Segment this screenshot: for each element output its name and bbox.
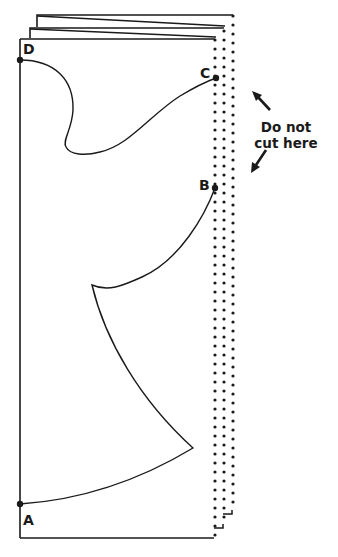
point-d-marker <box>17 57 23 63</box>
back-sheet <box>37 15 233 27</box>
cut-line-d-to-c <box>20 60 216 154</box>
point-c-label: C <box>200 66 210 80</box>
diagram-canvas <box>0 0 338 557</box>
point-d-label: D <box>23 42 35 56</box>
point-a-marker <box>17 501 23 507</box>
front-sheet <box>20 39 215 538</box>
arrow-up-left-icon <box>252 91 270 110</box>
point-b-label: B <box>199 178 210 192</box>
note-line-1: Do not <box>246 119 326 135</box>
folded-paper-diagram: D C B A Do not cut here <box>0 0 338 557</box>
point-b-marker <box>212 185 218 191</box>
back-sheet-bottom-corner <box>223 510 232 514</box>
dotted-fold-edge-front <box>213 38 216 536</box>
dotted-fold-edge-middle <box>222 29 225 518</box>
middle-sheet <box>30 28 224 38</box>
note-line-2: cut here <box>246 135 326 151</box>
cut-line-b-to-a <box>20 188 215 504</box>
point-a-label: A <box>23 513 34 527</box>
point-c-marker <box>213 75 219 81</box>
do-not-cut-note: Do not cut here <box>246 119 326 151</box>
dotted-fold-edge-back <box>231 14 234 503</box>
arrow-down-left-icon <box>251 150 266 173</box>
